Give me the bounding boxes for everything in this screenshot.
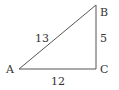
vertex-label-c: C [100,63,108,76]
vertex-label-b: B [100,6,108,19]
side-label-ac: 12 [51,75,65,88]
triangle-abc [19,5,96,69]
side-label-bc: 5 [100,32,107,45]
vertex-label-a: A [5,63,15,76]
triangle-diagram: A B C 13 5 12 [0,0,119,90]
side-label-ab: 13 [35,32,49,45]
